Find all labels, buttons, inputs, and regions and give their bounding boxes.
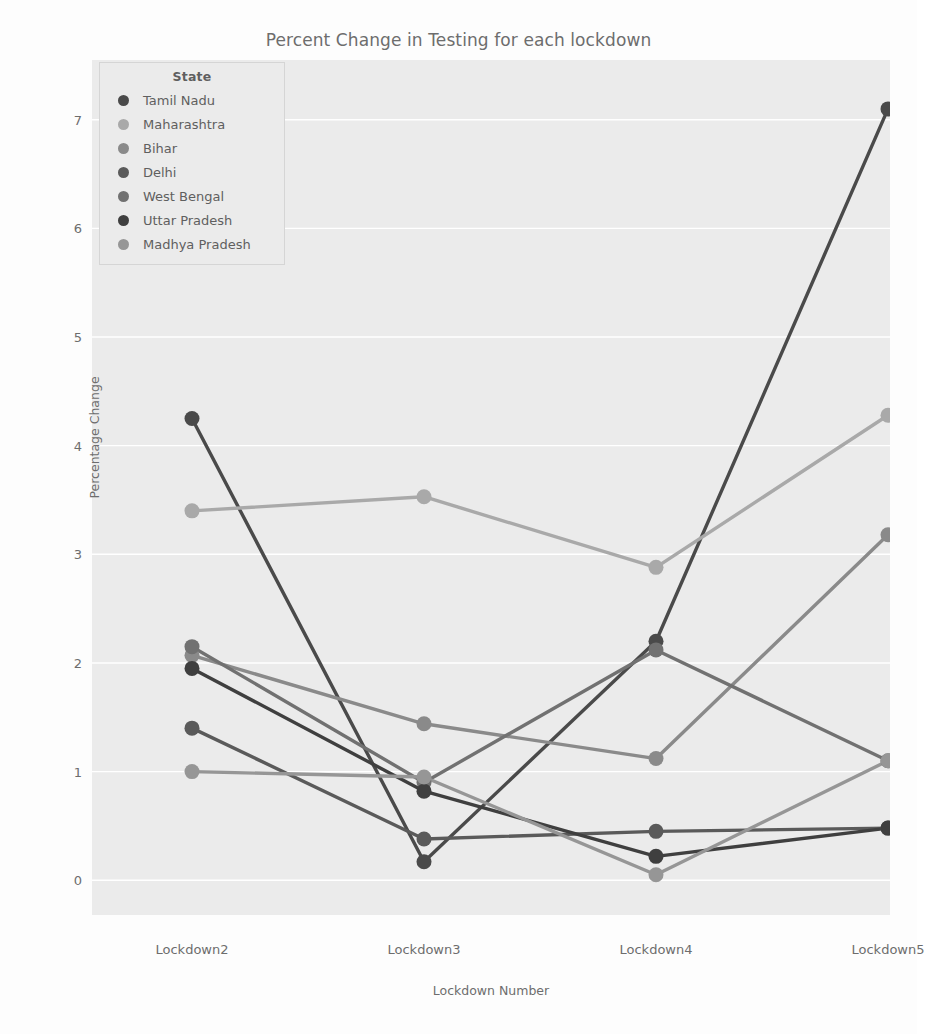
legend-marker-icon [118, 167, 129, 178]
legend-rows: Tamil NaduMaharashtraBiharDelhiWest Beng… [108, 88, 276, 256]
y-tick-1: 1 [12, 764, 82, 779]
y-tick-0: 0 [12, 873, 82, 888]
legend-marker-icon [118, 95, 129, 106]
legend-item-label: Madhya Pradesh [143, 237, 251, 252]
data-point-bihar-lockdown3 [417, 716, 432, 731]
x-tick-lockdown4: Lockdown4 [620, 942, 693, 957]
data-point-madhya-pradesh-lockdown5 [881, 753, 891, 768]
data-point-madhya-pradesh-lockdown4 [649, 867, 664, 882]
y-axis-label: Percentage Change [87, 338, 102, 538]
series-line-west-bengal [192, 647, 888, 783]
chart-title: Percent Change in Testing for each lockd… [0, 30, 917, 50]
data-point-tamil-nadu-lockdown2 [185, 411, 200, 426]
legend-item-label: West Bengal [143, 189, 224, 204]
legend-item-label: Uttar Pradesh [143, 213, 232, 228]
y-tick-4: 4 [12, 438, 82, 453]
data-point-madhya-pradesh-lockdown2 [185, 764, 200, 779]
legend-marker-icon [118, 215, 129, 226]
data-point-uttar-pradesh-lockdown4 [649, 849, 664, 864]
y-tick-3: 3 [12, 547, 82, 562]
x-tick-lockdown3: Lockdown3 [388, 942, 461, 957]
legend: State Tamil NaduMaharashtraBiharDelhiWes… [99, 62, 285, 265]
data-point-tamil-nadu-lockdown3 [417, 854, 432, 869]
data-point-delhi-lockdown2 [185, 721, 200, 736]
x-tick-lockdown5: Lockdown5 [852, 942, 925, 957]
legend-item-label: Bihar [143, 141, 177, 156]
legend-item-delhi[interactable]: Delhi [108, 160, 276, 184]
legend-item-bihar[interactable]: Bihar [108, 136, 276, 160]
data-point-delhi-lockdown3 [417, 831, 432, 846]
x-tick-lockdown2: Lockdown2 [156, 942, 229, 957]
data-point-west-bengal-lockdown4 [649, 642, 664, 657]
y-tick-5: 5 [12, 330, 82, 345]
data-point-west-bengal-lockdown2 [185, 639, 200, 654]
legend-item-tamil-nadu[interactable]: Tamil Nadu [108, 88, 276, 112]
legend-marker-icon [118, 239, 129, 250]
data-point-delhi-lockdown4 [649, 824, 664, 839]
legend-item-madhya-pradesh[interactable]: Madhya Pradesh [108, 232, 276, 256]
data-point-tamil-nadu-lockdown5 [881, 101, 891, 116]
x-axis-label: Lockdown Number [92, 983, 890, 998]
legend-item-uttar-pradesh[interactable]: Uttar Pradesh [108, 208, 276, 232]
legend-item-maharashtra[interactable]: Maharashtra [108, 112, 276, 136]
legend-item-label: Tamil Nadu [143, 93, 215, 108]
data-point-maharashtra-lockdown2 [185, 503, 200, 518]
data-point-maharashtra-lockdown3 [417, 489, 432, 504]
data-point-maharashtra-lockdown4 [649, 560, 664, 575]
series-line-maharashtra [192, 415, 888, 567]
legend-title: State [108, 69, 276, 84]
legend-marker-icon [118, 191, 129, 202]
data-point-uttar-pradesh-lockdown5 [881, 821, 891, 836]
legend-item-label: Delhi [143, 165, 176, 180]
series-markers [185, 101, 891, 882]
y-tick-6: 6 [12, 221, 82, 236]
y-tick-7: 7 [12, 112, 82, 127]
legend-marker-icon [118, 119, 129, 130]
legend-item-west-bengal[interactable]: West Bengal [108, 184, 276, 208]
legend-item-label: Maharashtra [143, 117, 225, 132]
data-point-uttar-pradesh-lockdown2 [185, 661, 200, 676]
data-point-uttar-pradesh-lockdown3 [417, 784, 432, 799]
data-point-madhya-pradesh-lockdown3 [417, 770, 432, 785]
data-point-bihar-lockdown4 [649, 751, 664, 766]
legend-marker-icon [118, 143, 129, 154]
series-lines [192, 109, 888, 875]
y-tick-2: 2 [12, 655, 82, 670]
